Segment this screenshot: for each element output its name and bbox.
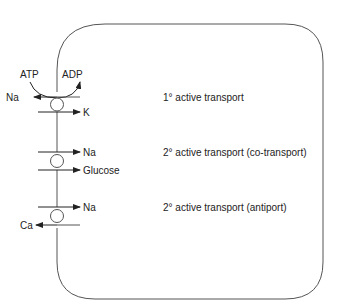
atp-adp-arrow [30,82,80,98]
cotransport-label: 2° active transport (co-transport) [163,147,307,158]
k-label: K [83,107,90,118]
pump-circle [51,98,64,111]
primary-transport-label: 1° active transport [163,92,244,103]
symporter-circle [51,155,64,168]
adp-label: ADP [62,69,83,80]
transport-diagram: ATP ADP Na K 1° active transport Na Gluc… [0,0,342,308]
glucose-label: Glucose [83,165,120,176]
atp-label: ATP [20,69,39,80]
cell-membrane-outline [57,24,323,299]
na-label: Na [6,92,19,103]
antiporter-circle [51,210,64,223]
primary-active-transporter [30,82,80,112]
ca-label: Ca [20,220,33,231]
na-label: Na [83,147,96,158]
na-label: Na [83,202,96,213]
antiporter [36,207,80,225]
cotransporter [38,152,80,170]
antiport-label: 2° active transport (antiport) [163,202,287,213]
